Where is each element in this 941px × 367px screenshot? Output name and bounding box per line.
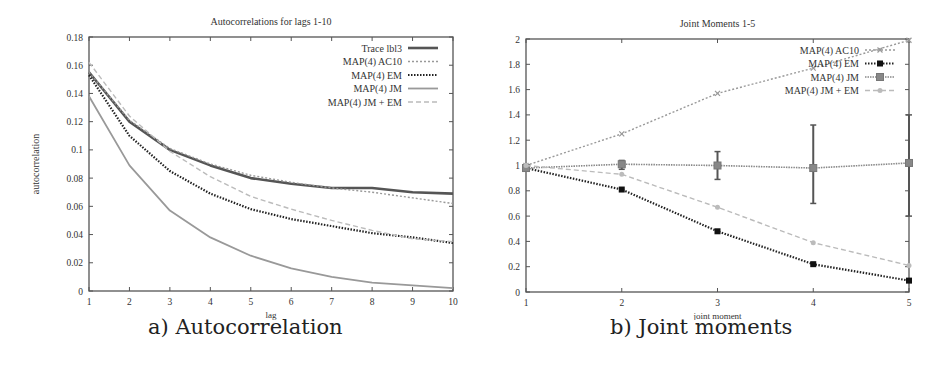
x-tick-label: 7 — [329, 297, 334, 307]
y-tick-label: 0.06 — [66, 202, 83, 212]
chart-legend: Trace lbl3MAP(4) AC10MAP(4) EMMAP(4) JMM… — [328, 43, 438, 109]
y-tick-label: 0.16 — [66, 61, 83, 71]
autocorrelation-chart: Autocorrelations for lags 1-1000.020.040… — [0, 0, 470, 320]
x-tick-label: 6 — [289, 297, 294, 307]
data-marker — [810, 165, 817, 172]
data-marker — [877, 61, 883, 67]
data-marker — [907, 263, 912, 268]
legend-label: MAP(4) JM — [810, 72, 859, 84]
data-marker — [715, 228, 721, 234]
data-marker — [811, 240, 816, 245]
chart-title: Joint Moments 1-5 — [680, 18, 756, 29]
legend-label: Trace lbl3 — [362, 43, 402, 54]
series-map-4-jm — [523, 115, 913, 216]
autocorrelation-caption: a) Autocorrelation — [148, 315, 343, 339]
y-tick-label: 1.6 — [508, 85, 520, 95]
y-tick-label: 0 — [78, 287, 83, 297]
x-tick-label: 4 — [208, 297, 213, 307]
y-tick-label: 0.02 — [66, 258, 83, 268]
y-tick-label: 0.08 — [66, 174, 83, 184]
y-tick-label: 1.2 — [508, 136, 520, 146]
data-marker — [906, 278, 912, 284]
data-marker — [906, 159, 913, 166]
x-tick-label: 2 — [127, 297, 132, 307]
x-tick-label: 9 — [410, 297, 415, 307]
chart-title: Autocorrelations for lags 1-10 — [211, 16, 332, 27]
autocorrelation-chart-panel: Autocorrelations for lags 1-1000.020.040… — [0, 0, 470, 367]
y-tick-label: 1.8 — [508, 60, 520, 70]
x-tick-label: 3 — [715, 298, 720, 308]
joint-moments-chart: Joint Moments 1-500.20.40.60.811.21.41.6… — [470, 0, 941, 320]
y-tick-label: 0.6 — [508, 212, 520, 222]
data-marker — [619, 131, 624, 136]
chart-legend: MAP(4) AC10MAP(4) EMMAP(4) JMMAP(4) JM +… — [785, 45, 895, 98]
data-marker — [878, 88, 883, 93]
y-tick-label: 0 — [515, 288, 520, 298]
x-tick-label: 5 — [907, 298, 912, 308]
legend-label: MAP(4) AC10 — [343, 56, 402, 68]
y-tick-label: 0.1 — [71, 145, 83, 155]
legend-label: MAP(4) JM + EM — [785, 85, 859, 97]
x-tick-label: 2 — [619, 298, 624, 308]
x-tick-label: 3 — [168, 297, 173, 307]
series-map-4-em — [523, 165, 912, 284]
y-tick-label: 0.2 — [508, 262, 520, 272]
data-marker — [619, 187, 625, 193]
joint-moments-chart-panel: Joint Moments 1-500.20.40.60.811.21.41.6… — [470, 0, 941, 367]
x-tick-label: 1 — [524, 298, 529, 308]
x-tick-label: 4 — [811, 298, 816, 308]
data-marker — [715, 205, 720, 210]
data-marker — [714, 162, 721, 169]
x-tick-label: 8 — [370, 297, 375, 307]
data-marker — [619, 172, 624, 177]
data-marker — [618, 161, 625, 168]
legend-label: MAP(4) EM — [351, 70, 402, 82]
y-tick-label: 0.18 — [66, 33, 83, 43]
x-tick-label: 1 — [87, 297, 92, 307]
data-marker — [524, 163, 529, 168]
x-tick-label: 10 — [448, 297, 458, 307]
legend-label: MAP(4) AC10 — [800, 45, 859, 57]
y-tick-label: 1 — [515, 161, 520, 171]
data-marker — [877, 74, 884, 81]
data-marker — [715, 91, 720, 96]
series-map-4-jm — [89, 96, 453, 288]
y-axis-label: autocorrelation — [30, 134, 41, 195]
y-tick-label: 1.4 — [508, 110, 520, 120]
legend-label: MAP(4) JM + EM — [328, 97, 402, 109]
y-tick-label: 2 — [515, 35, 520, 45]
legend-label: MAP(4) JM — [353, 83, 402, 95]
y-tick-label: 0.12 — [66, 117, 83, 127]
joint-moments-caption: b) Joint moments — [610, 315, 792, 339]
data-marker — [810, 261, 816, 267]
x-tick-label: 5 — [248, 297, 253, 307]
y-tick-label: 0.8 — [508, 186, 520, 196]
legend-label: MAP(4) EM — [808, 58, 859, 70]
y-tick-label: 0.14 — [66, 89, 83, 99]
y-tick-label: 0.4 — [508, 237, 520, 247]
y-tick-label: 0.04 — [66, 230, 83, 240]
